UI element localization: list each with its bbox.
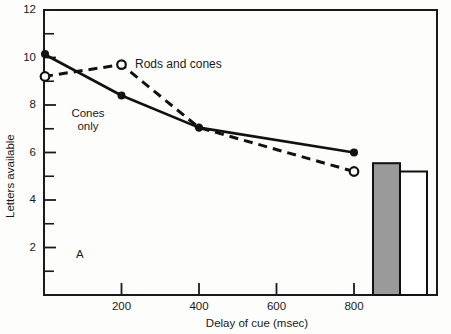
xtick-label-600: 600: [257, 300, 297, 312]
x-axis-title: Delay of cue (msec): [157, 317, 357, 329]
xtick-label-800: 800: [334, 300, 374, 312]
ytick-label-12: 12: [14, 3, 36, 15]
ytick-label-8: 8: [14, 98, 36, 110]
ytick-label-10: 10: [14, 51, 36, 63]
ytick-label-4: 4: [14, 193, 36, 205]
panel-letter: A: [76, 248, 84, 260]
y-axis-title: Letters available: [4, 134, 16, 218]
ytick-label-6: 6: [14, 146, 36, 158]
figure-panel-a: 12 10 8 6 4 2 200 400 600 800 Delay of c…: [0, 0, 451, 334]
series-label-cones-only-word: only: [57, 120, 119, 133]
series-label-cones-only-line1: Conesonly: [57, 107, 119, 133]
series-label-cones-only-word: Cones: [57, 107, 119, 120]
plot-canvas: [0, 0, 451, 334]
bar-filled: [373, 163, 400, 295]
bar-open: [400, 172, 427, 296]
xtick-label-400: 400: [179, 300, 219, 312]
series-label-rods-and-cones: Rods and cones: [135, 57, 222, 71]
series-label-cones-only: Conesonly: [57, 107, 119, 133]
ytick-label-2: 2: [14, 241, 36, 253]
xtick-label-200: 200: [102, 300, 142, 312]
